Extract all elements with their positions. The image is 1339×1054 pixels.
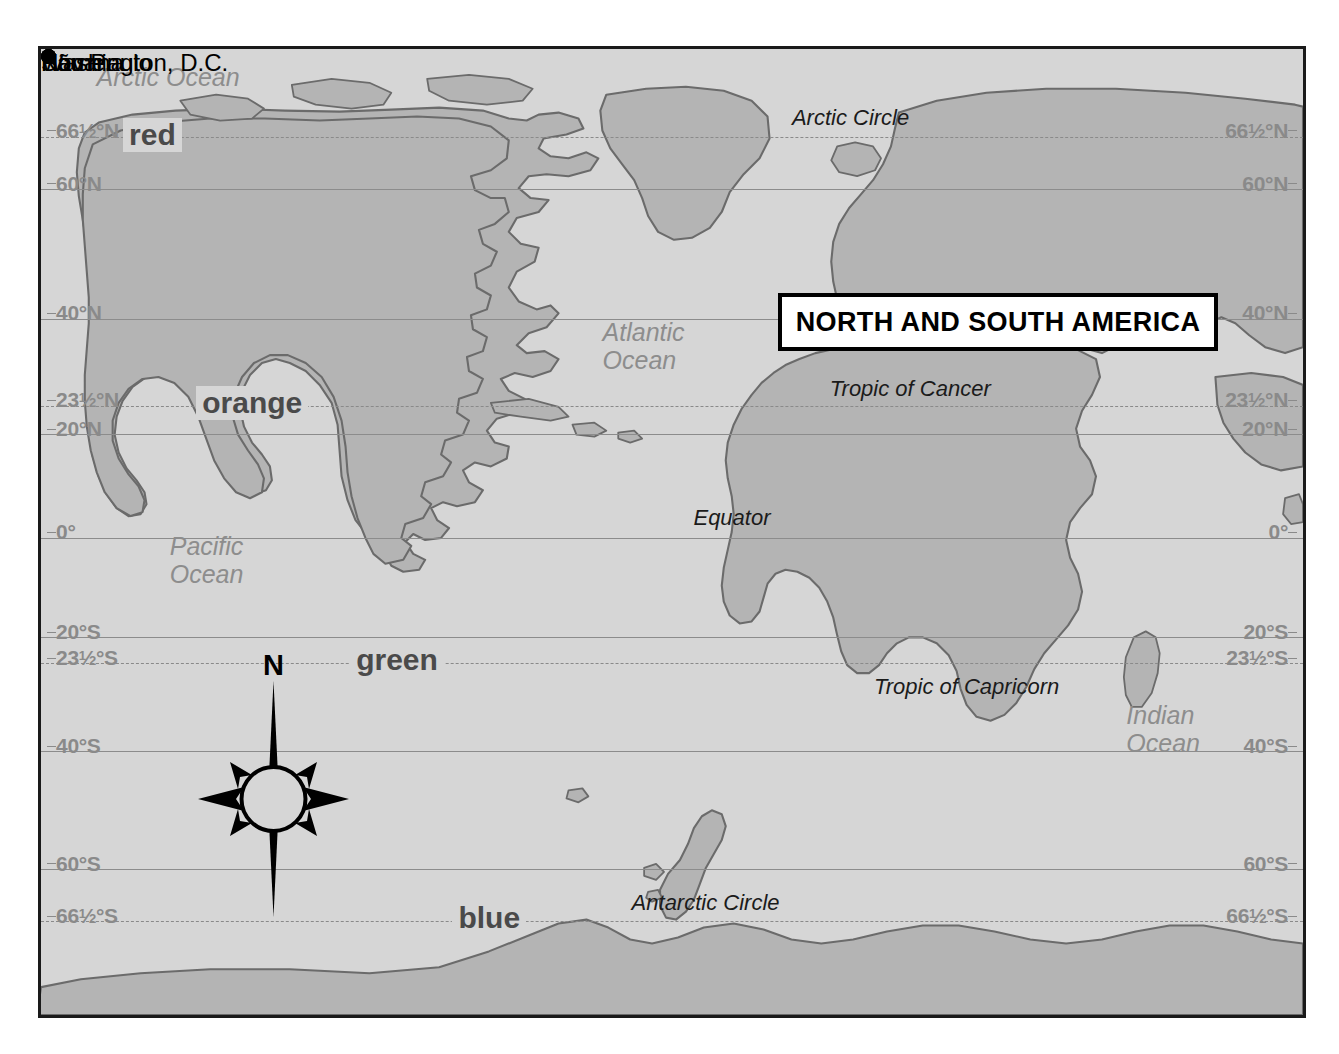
lat-label-left-23n: 231⁄2°N	[47, 388, 119, 412]
map-title: NORTH AND SOUTH AMERICA	[796, 307, 1201, 338]
land-antarctica	[41, 920, 1303, 1015]
land-iceland	[831, 142, 881, 176]
lat-label-left-40n: 40°N	[47, 301, 102, 325]
compass-north-label: N	[191, 649, 356, 682]
annotation-orange: orange	[196, 386, 308, 420]
lat-label-left-60s: 60°S	[47, 852, 101, 876]
annotation-blue: blue	[452, 901, 526, 935]
lat-label-right-23s: 231⁄2°S	[1226, 646, 1297, 670]
compass-rose-icon	[191, 649, 356, 924]
latitude-line-arctic-circle	[41, 137, 1303, 138]
lat-label-right-66s: 661⁄2°S	[1226, 904, 1297, 928]
annotation-red: red	[123, 118, 182, 152]
lat-label-right-23n: 231⁄2°N	[1225, 388, 1297, 412]
map-page: .land{fill:#b4b4b4;stroke:#6b6b6b;stroke…	[0, 0, 1339, 1054]
ocean-label-pacific: Pacific Ocean	[170, 532, 244, 588]
ocean-label-atlantic: Atlantic Ocean	[603, 318, 685, 374]
land-antarctic-island-a	[644, 864, 664, 880]
land-arctic-islands-2	[427, 75, 532, 105]
lat-label-left-20s: 20°S	[47, 620, 101, 644]
land-madagascar	[1124, 631, 1160, 707]
lat-label-left-66n: 661⁄2°N	[47, 119, 119, 143]
label-equator: Equator	[693, 505, 770, 531]
lat-label-left-66s: 661⁄2°S	[47, 904, 118, 928]
lat-label-right-20s: 20°S	[1243, 620, 1297, 644]
ocean-label-indian: Indian Ocean	[1126, 701, 1200, 757]
world-map-frame: .land{fill:#b4b4b4;stroke:#6b6b6b;stroke…	[38, 46, 1306, 1018]
lat-label-right-60n: 60°N	[1242, 172, 1297, 196]
lat-label-left-40s: 40°S	[47, 734, 101, 758]
lat-label-left-60n: 60°N	[47, 172, 102, 196]
land-greenland	[600, 87, 769, 240]
lat-label-right-60s: 60°S	[1243, 852, 1297, 876]
lat-label-right-20n: 20°N	[1242, 417, 1297, 441]
lat-label-right-40n: 40°N	[1242, 301, 1297, 325]
latitude-line-60n	[41, 189, 1303, 190]
city-label-sao-paulo: São Paulo	[41, 49, 152, 77]
latitude-line-20s	[41, 637, 1303, 638]
label-tropic-of-capricorn: Tropic of Capricorn	[874, 674, 1059, 700]
latitude-line-20n	[41, 434, 1303, 435]
map-title-box: NORTH AND SOUTH AMERICA	[778, 293, 1218, 351]
lat-label-left-20n: 20°N	[47, 417, 102, 441]
land-falklands	[567, 788, 589, 802]
lat-label-left-23s: 231⁄2°S	[47, 646, 118, 670]
annotation-green: green	[350, 643, 444, 677]
lat-label-right-40s: 40°S	[1243, 734, 1297, 758]
land-arctic-islands	[292, 79, 392, 109]
label-antarctic-circle: Antarctic Circle	[632, 890, 780, 916]
lat-label-right-66n: 661⁄2°N	[1225, 119, 1297, 143]
label-arctic-circle: Arctic Circle	[792, 105, 909, 131]
compass-rose: N	[191, 649, 356, 924]
lat-label-left-0: 0°	[47, 520, 76, 544]
land-antilles	[618, 431, 642, 443]
lat-label-right-0: 0°	[1269, 520, 1298, 544]
label-tropic-of-cancer: Tropic of Cancer	[830, 376, 991, 402]
